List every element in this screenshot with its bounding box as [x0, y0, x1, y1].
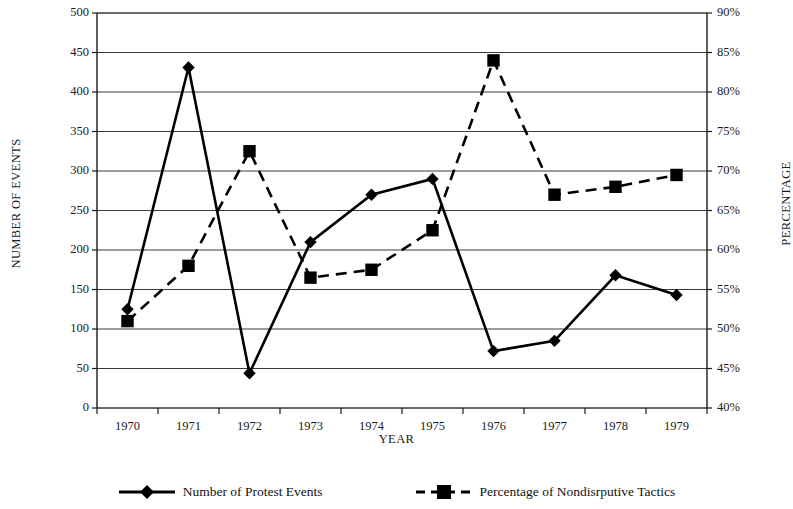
x-axis-title: YEAR: [0, 432, 793, 447]
data-point-marker: [548, 189, 560, 201]
square-icon: [415, 484, 473, 500]
series-line-1: [128, 68, 677, 374]
y-axis-left-tick-label: 50: [29, 362, 89, 375]
y-axis-right-tick-label: 85%: [717, 46, 777, 59]
y-axis-left-tick-label: 450: [29, 46, 89, 59]
data-point-marker: [365, 264, 377, 276]
data-point-marker: [426, 224, 438, 236]
data-point-marker: [182, 61, 194, 73]
y-axis-right-tick-label: 50%: [717, 322, 777, 335]
y-axis-left-tick-label: 300: [29, 164, 89, 177]
legend-label-protest-events: Number of Protest Events: [183, 484, 323, 500]
data-point-marker: [121, 315, 133, 327]
y-axis-right-tick-label: 40%: [717, 401, 777, 414]
axis-ticks: [92, 13, 712, 414]
y-axis-right-title: PERCENTAGE: [779, 104, 793, 304]
legend-item-protest-events: Number of Protest Events: [118, 484, 323, 500]
protest-events-chart: NUMBER OF EVENTS PERCENTAGE YEAR 0501001…: [0, 0, 793, 509]
y-axis-left-tick-label: 100: [29, 322, 89, 335]
legend-label-nondisruptive-tactics: Percentage of Nondisrputive Tactics: [480, 484, 676, 500]
y-axis-left-tick-label: 200: [29, 243, 89, 256]
y-axis-left-tick-label: 400: [29, 85, 89, 98]
data-point-marker: [487, 54, 499, 66]
y-axis-left-tick-label: 250: [29, 204, 89, 217]
data-series-layer: [121, 54, 682, 379]
data-point-marker: [609, 181, 621, 193]
y-axis-right-tick-label: 90%: [717, 6, 777, 19]
series-line-2: [128, 60, 677, 321]
data-point-marker: [243, 145, 255, 157]
data-point-marker: [670, 289, 682, 301]
data-point-marker: [182, 260, 194, 272]
y-axis-right-tick-label: 60%: [717, 243, 777, 256]
y-axis-left-tick-label: 500: [29, 6, 89, 19]
x-axis-tick-label: 1979: [637, 420, 717, 433]
y-axis-right-tick-label: 75%: [717, 125, 777, 138]
data-point-marker: [426, 173, 438, 185]
y-axis-right-tick-label: 70%: [717, 164, 777, 177]
y-axis-left-tick-label: 350: [29, 125, 89, 138]
y-axis-right-tick-label: 55%: [717, 283, 777, 296]
data-point-marker: [487, 345, 499, 357]
data-point-marker: [304, 271, 316, 283]
y-axis-left-tick-label: 150: [29, 283, 89, 296]
y-axis-left-tick-label: 0: [29, 401, 89, 414]
y-axis-right-tick-label: 65%: [717, 204, 777, 217]
y-axis-right-tick-label: 45%: [717, 362, 777, 375]
diamond-icon: [118, 484, 176, 500]
y-axis-left-title: NUMBER OF EVENTS: [9, 104, 24, 304]
chart-legend: Number of Protest Events Percentage of N…: [0, 474, 793, 509]
data-point-marker: [670, 169, 682, 181]
data-point-marker: [121, 303, 133, 315]
legend-item-nondisruptive-tactics: Percentage of Nondisrputive Tactics: [415, 484, 676, 500]
y-axis-right-tick-label: 80%: [717, 85, 777, 98]
